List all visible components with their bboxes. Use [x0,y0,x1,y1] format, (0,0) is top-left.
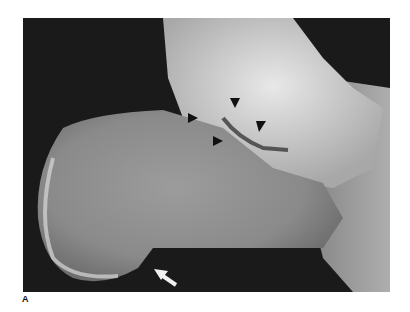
panel-label: A [22,294,29,304]
radiograph-image [23,18,390,292]
xray-graphic [23,18,390,292]
